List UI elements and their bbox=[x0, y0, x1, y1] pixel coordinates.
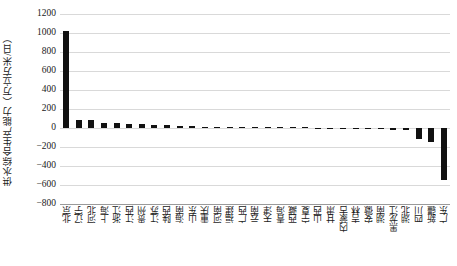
x-axis-tick-label-text: 甘肃 bbox=[326, 206, 335, 223]
x-axis-tick-label: 黑龙江 bbox=[387, 206, 400, 232]
bar-slot bbox=[110, 14, 123, 204]
bar[interactable] bbox=[76, 120, 82, 128]
bar-slot bbox=[400, 14, 413, 204]
x-axis-tick-label: 四川 bbox=[412, 206, 425, 223]
bar[interactable] bbox=[63, 31, 69, 128]
x-axis-tick-labels: 北京辽宁河北上海浙江江西贵州江苏陕西海南山东重庆河南福建广西云南天津青海西藏宁夏… bbox=[60, 206, 450, 266]
bar-slot bbox=[437, 14, 450, 204]
y-axis-title-label: 供水综合生产能力（万立方米/日） bbox=[4, 33, 14, 186]
bar[interactable] bbox=[277, 127, 283, 128]
x-axis-tick-label: 海南 bbox=[173, 206, 186, 223]
bar[interactable] bbox=[189, 126, 195, 128]
y-axis-title: 供水综合生产能力（万立方米/日） bbox=[0, 0, 18, 218]
bar-slot bbox=[274, 14, 287, 204]
x-axis-tick-label: 湖北 bbox=[400, 206, 413, 223]
bar[interactable] bbox=[114, 123, 120, 128]
bar[interactable] bbox=[227, 127, 233, 128]
y-axis-tick-label: −800 bbox=[36, 199, 56, 209]
bar-slot bbox=[312, 14, 325, 204]
bar[interactable] bbox=[416, 128, 422, 139]
bar-slot bbox=[98, 14, 111, 204]
y-axis-tick-labels: 120010008006004002000−200−400−600−800 bbox=[18, 0, 60, 218]
x-axis-tick-label: 山东 bbox=[186, 206, 199, 223]
x-axis-tick-label-text: 云南 bbox=[250, 206, 259, 223]
bar-slot bbox=[211, 14, 224, 204]
x-axis-tick-label: 陕西 bbox=[161, 206, 174, 223]
bar[interactable] bbox=[164, 125, 170, 128]
bar-chart: 供水综合生产能力（万立方米/日） 120010008006004002000−2… bbox=[0, 0, 457, 266]
bar[interactable] bbox=[88, 120, 94, 128]
y-axis-tick-label: 1000 bbox=[37, 28, 56, 38]
bar[interactable] bbox=[428, 128, 434, 142]
bar-slot bbox=[148, 14, 161, 204]
x-axis-tick-label: 贵州 bbox=[135, 206, 148, 223]
x-axis-tick-label-text: 江苏 bbox=[150, 206, 159, 223]
bar[interactable] bbox=[214, 127, 220, 128]
bar-slot bbox=[123, 14, 136, 204]
bar-slot bbox=[198, 14, 211, 204]
bar[interactable] bbox=[302, 127, 308, 128]
x-axis-tick-label-text: 安徽 bbox=[364, 206, 373, 223]
x-axis-tick-label: 内蒙古 bbox=[337, 206, 350, 232]
x-axis-tick-label: 上海 bbox=[98, 206, 111, 223]
bar[interactable] bbox=[327, 128, 333, 129]
bar[interactable] bbox=[101, 123, 107, 128]
x-axis-tick-label-text: 河北 bbox=[87, 206, 96, 223]
y-axis-tick-label: 0 bbox=[51, 123, 56, 133]
bar[interactable] bbox=[403, 128, 409, 130]
y-axis-tick-label: −600 bbox=[36, 180, 56, 190]
bar[interactable] bbox=[126, 124, 132, 128]
x-axis-tick-label: 甘肃 bbox=[324, 206, 337, 223]
x-axis-tick-label: 江苏 bbox=[148, 206, 161, 223]
x-axis-tick-label-text: 福建 bbox=[225, 206, 234, 223]
bar[interactable] bbox=[177, 126, 183, 128]
bar[interactable] bbox=[139, 124, 145, 128]
x-axis-tick-label: 北京 bbox=[60, 206, 73, 223]
x-axis-tick-label: 安徽 bbox=[362, 206, 375, 223]
x-axis-tick-label: 湖南 bbox=[375, 206, 388, 223]
x-axis-tick-label: 新疆 bbox=[425, 206, 438, 223]
bar-slot bbox=[173, 14, 186, 204]
x-axis-tick-label: 浙江 bbox=[110, 206, 123, 223]
x-axis-tick-label: 西藏 bbox=[286, 206, 299, 223]
bar[interactable] bbox=[340, 128, 346, 129]
x-axis-tick-label-text: 黑龙江 bbox=[389, 206, 398, 232]
bar[interactable] bbox=[239, 127, 245, 128]
bar-slot bbox=[375, 14, 388, 204]
bar[interactable] bbox=[390, 128, 396, 130]
bars-layer bbox=[60, 14, 450, 204]
y-axis-tick-label: −400 bbox=[36, 161, 56, 171]
bar-slot bbox=[249, 14, 262, 204]
bar-slot bbox=[85, 14, 98, 204]
x-axis-tick-label-text: 辽宁 bbox=[74, 206, 83, 223]
bar[interactable] bbox=[252, 127, 258, 128]
bar[interactable] bbox=[290, 127, 296, 128]
bar-slot bbox=[387, 14, 400, 204]
bar[interactable] bbox=[365, 128, 371, 129]
bar-slot bbox=[337, 14, 350, 204]
bar[interactable] bbox=[378, 128, 384, 129]
bar[interactable] bbox=[202, 127, 208, 128]
bar-slot bbox=[161, 14, 174, 204]
x-axis-tick-label-text: 贵州 bbox=[137, 206, 146, 223]
bar[interactable] bbox=[151, 125, 157, 128]
bar-slot bbox=[60, 14, 73, 204]
x-axis-tick-label-text: 山西 bbox=[313, 206, 322, 223]
x-axis-line bbox=[60, 204, 450, 205]
bar[interactable] bbox=[441, 128, 447, 180]
x-axis-tick-label-text: 四川 bbox=[414, 206, 423, 223]
x-axis-tick-label-text: 湖北 bbox=[401, 206, 410, 223]
bar[interactable] bbox=[265, 127, 271, 128]
plot-area bbox=[60, 14, 450, 204]
x-axis-tick-label-text: 吉林 bbox=[351, 206, 360, 223]
bar-slot bbox=[425, 14, 438, 204]
bar[interactable] bbox=[315, 128, 321, 129]
bar[interactable] bbox=[353, 128, 359, 129]
x-axis-tick-label-text: 山东 bbox=[188, 206, 197, 223]
x-axis-tick-label-text: 广西 bbox=[238, 206, 247, 223]
x-axis-tick-label: 河北 bbox=[85, 206, 98, 223]
bar-slot bbox=[286, 14, 299, 204]
bar-slot bbox=[349, 14, 362, 204]
bar-slot bbox=[224, 14, 237, 204]
x-axis-tick-label: 广东 bbox=[437, 206, 450, 223]
